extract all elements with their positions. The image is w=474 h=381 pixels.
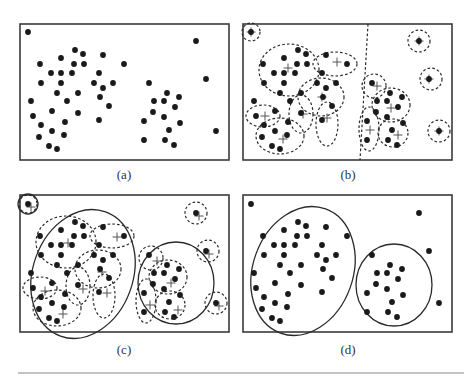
data-point [261,122,267,128]
data-point [54,318,60,324]
data-point [319,70,325,76]
data-point [30,285,36,291]
data-point [161,270,167,276]
data-point [36,306,42,312]
data-point [389,299,395,305]
data-point [284,304,290,310]
data-point [62,119,68,125]
data-point [436,128,442,134]
data-point [284,132,290,138]
data-point [395,276,401,282]
data-point [329,103,335,109]
data-point [46,143,52,149]
data-point [384,270,390,276]
data-point [314,252,320,258]
data-point [436,300,442,306]
data-point [385,137,391,143]
data-point [25,29,31,35]
data-point [58,227,64,233]
data-point [400,292,406,298]
data-point [106,103,112,109]
data-point [287,270,293,276]
panel-d [233,192,452,350]
data-point [110,80,116,86]
data-point [320,94,326,100]
panel-b-frame [243,24,452,160]
data-point [49,108,55,114]
data-point [387,90,393,96]
data-point [141,137,147,143]
data-point [110,252,116,258]
data-point [96,70,102,76]
data-point [329,275,335,281]
data-point [61,304,67,310]
data-point [58,242,64,248]
data-point [213,128,219,134]
data-point [294,233,300,239]
panel-a-caption: (a) [117,167,131,182]
data-point [75,262,81,268]
data-point [426,248,432,254]
data-point [64,270,70,276]
data-point [281,70,287,76]
data-point [203,248,209,254]
data-point [36,134,42,140]
data-point [49,300,55,306]
data-point [394,142,400,148]
data-point [272,128,278,134]
panel-b-points [248,29,442,152]
data-point [91,252,97,258]
cluster-center-marker [333,58,342,67]
data-point [271,70,277,76]
data-point [164,90,170,96]
data-point [281,80,287,86]
data-point [333,80,339,86]
data-point [248,29,254,35]
micro-cluster [316,102,338,146]
data-point [374,270,380,276]
data-point [251,270,257,276]
data-point [28,98,34,104]
data-point [369,80,375,86]
data-point [416,38,422,44]
data-point [271,242,277,248]
cluster-center-marker [146,301,155,310]
data-point [64,98,70,104]
data-point [272,108,278,114]
panel-d-frame [243,195,452,332]
data-point [387,262,393,268]
data-point [146,252,152,258]
data-point [295,47,301,53]
data-point [162,137,168,143]
data-point [272,300,278,306]
data-point [320,266,326,272]
data-point [150,281,156,287]
data-point [344,233,350,239]
data-point [69,242,75,248]
cluster-center-marker [59,310,68,319]
data-point [96,289,102,295]
data-point [46,315,52,321]
data-point [58,55,64,61]
data-point [54,262,60,268]
data-point [292,70,298,76]
cluster-center-marker [113,233,122,242]
data-point [151,270,157,276]
data-point [384,98,390,104]
data-point [58,80,64,86]
data-point [97,266,103,272]
cluster-center-marker [174,306,183,315]
data-point [100,224,106,230]
data-point [261,294,267,300]
data-point [298,90,304,96]
panel-d-points [248,201,442,324]
data-point [49,280,55,286]
data-point [385,309,391,315]
data-point [259,134,265,140]
data-point [141,118,147,124]
cluster-center-marker [394,131,403,140]
data-point [150,109,156,115]
data-point [28,270,34,276]
data-point [319,117,325,123]
data-point [253,285,259,291]
